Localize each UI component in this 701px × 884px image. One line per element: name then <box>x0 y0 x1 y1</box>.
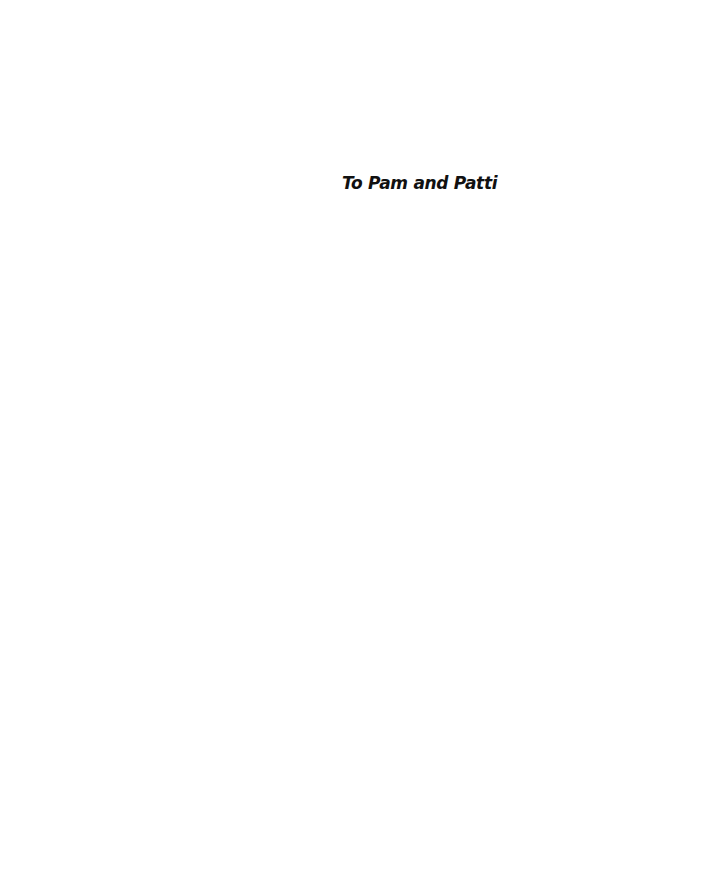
dedication-page: To Pam and Patti <box>0 0 701 884</box>
dedication-text: To Pam and Patti <box>342 173 497 193</box>
